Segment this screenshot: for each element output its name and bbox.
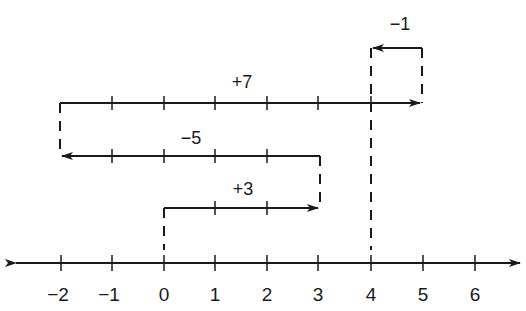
number-line-diagram: −2 −1 0 1 2 3 4 5 6 +3 [0,0,526,311]
tick-label: 1 [210,284,221,305]
step-label-minus-1: −1 [390,14,411,34]
step-label-plus-3: +3 [233,179,254,199]
tick-label: 3 [313,284,324,305]
axis-tick-labels: −2 −1 0 1 2 3 4 5 6 [47,284,480,305]
step-label-plus-7: +7 [232,72,253,92]
tick-label: 0 [159,284,170,305]
tick-label: 6 [470,284,481,305]
step-minus-1-arrow [371,48,422,56]
step-plus-7-arrow [60,96,420,110]
step-minus-5-arrow [62,149,320,164]
step-plus-3-arrow [164,201,318,215]
tick-label: −2 [47,284,69,305]
tick-label: −1 [98,284,120,305]
tick-label: 4 [366,284,377,305]
step-label-minus-5: −5 [181,128,202,148]
tick-label: 2 [262,284,273,305]
diagram-svg: −2 −1 0 1 2 3 4 5 6 +3 [0,0,526,311]
tick-label: 5 [418,284,429,305]
